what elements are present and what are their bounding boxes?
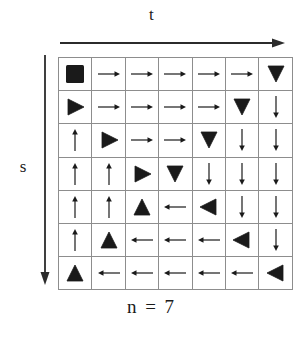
grid-cell-r4-c5	[192, 157, 225, 190]
thin-right-arrow-icon	[126, 91, 158, 123]
thin-down-arrow-icon	[226, 191, 258, 223]
grid-row	[59, 124, 293, 157]
thin-up-arrow-icon	[59, 124, 91, 156]
grid-cell-r4-c7	[259, 157, 292, 190]
thin-up-arrow-icon	[59, 224, 91, 256]
grid-cell-r4-c6	[225, 157, 258, 190]
bold-up-triangle-icon	[126, 191, 158, 223]
bold-right-triangle-icon	[59, 91, 91, 123]
grid-cell-r7-c2	[92, 257, 125, 290]
grid-row	[59, 257, 293, 290]
grid-cell-r5-c2	[92, 190, 125, 223]
thin-right-arrow-icon	[193, 91, 225, 123]
grid-cell-r4-c4	[159, 157, 192, 190]
bold-down-triangle-icon	[159, 158, 191, 190]
t-axis-arrow-icon	[60, 33, 285, 53]
grid-cell-r4-c2	[92, 157, 125, 190]
grid-cell-r7-c3	[125, 257, 158, 290]
grid-cell-r3-c3	[125, 124, 158, 157]
grid-cell-r2-c4	[159, 91, 192, 124]
grid-cell-r1-c4	[159, 58, 192, 91]
grid-cell-r3-c7	[259, 124, 292, 157]
thin-down-arrow-icon	[193, 158, 225, 190]
grid-cell-r1-c3	[125, 58, 158, 91]
grid-cell-r6-c6	[225, 223, 258, 256]
thin-up-arrow-icon	[59, 158, 91, 190]
grid-cell-r2-c5	[192, 91, 225, 124]
bold-left-triangle-icon	[259, 257, 291, 289]
grid-cell-r3-c6	[225, 124, 258, 157]
s-axis-arrow-icon	[35, 55, 55, 285]
thin-up-arrow-icon	[59, 191, 91, 223]
grid-cell-r5-c3	[125, 190, 158, 223]
grid-cell-r6-c3	[125, 223, 158, 256]
thin-up-arrow-icon	[92, 158, 124, 190]
grid-cell-r2-c6	[225, 91, 258, 124]
bold-left-triangle-icon	[226, 224, 258, 256]
direction-grid-body	[59, 58, 293, 290]
grid-cell-r3-c1	[59, 124, 92, 157]
grid-cell-r7-c1	[59, 257, 92, 290]
thin-right-arrow-icon	[92, 58, 124, 90]
thin-left-arrow-icon	[193, 257, 225, 289]
grid-cell-r4-c3	[125, 157, 158, 190]
bold-left-triangle-icon	[193, 191, 225, 223]
grid-cell-r2-c1	[59, 91, 92, 124]
grid-cell-r5-c7	[259, 190, 292, 223]
thin-left-arrow-icon	[159, 224, 191, 256]
grid-cell-r3-c4	[159, 124, 192, 157]
thin-down-arrow-icon	[226, 158, 258, 190]
figure-caption: n = 7	[0, 296, 303, 318]
thin-right-arrow-icon	[193, 58, 225, 90]
thin-down-arrow-icon	[226, 124, 258, 156]
grid-row	[59, 223, 293, 256]
figure-root: t s n = 7	[0, 0, 303, 342]
thin-left-arrow-icon	[193, 224, 225, 256]
bold-right-triangle-icon	[92, 124, 124, 156]
grid-cell-r6-c1	[59, 223, 92, 256]
thin-down-arrow-icon	[259, 224, 291, 256]
thin-left-arrow-icon	[159, 257, 191, 289]
thin-right-arrow-icon	[226, 58, 258, 90]
grid-cell-r2-c2	[92, 91, 125, 124]
bold-down-triangle-icon	[259, 58, 291, 90]
s-axis-label: s	[10, 158, 36, 176]
thin-right-arrow-icon	[126, 124, 158, 156]
thin-left-arrow-icon	[126, 224, 158, 256]
block-marker-icon	[59, 58, 91, 90]
grid-cell-r6-c5	[192, 223, 225, 256]
bold-down-triangle-icon	[193, 124, 225, 156]
thin-down-arrow-icon	[259, 191, 291, 223]
grid-row	[59, 157, 293, 190]
thin-right-arrow-icon	[159, 124, 191, 156]
grid-cell-r1-c6	[225, 58, 258, 91]
grid-cell-r7-c4	[159, 257, 192, 290]
grid-cell-r6-c7	[259, 223, 292, 256]
thin-left-arrow-icon	[126, 257, 158, 289]
thin-left-arrow-icon	[159, 191, 191, 223]
grid-cell-r2-c7	[259, 91, 292, 124]
bold-up-triangle-icon	[92, 224, 124, 256]
grid-cell-r5-c1	[59, 190, 92, 223]
grid-cell-r5-c6	[225, 190, 258, 223]
thin-down-arrow-icon	[259, 91, 291, 123]
bold-up-triangle-icon	[59, 257, 91, 289]
grid-cell-r1-c1	[59, 58, 92, 91]
grid-cell-r7-c6	[225, 257, 258, 290]
t-axis-label: t	[0, 6, 303, 24]
grid-row	[59, 58, 293, 91]
thin-right-arrow-icon	[126, 58, 158, 90]
thin-left-arrow-icon	[92, 257, 124, 289]
grid-cell-r1-c7	[259, 58, 292, 91]
grid-cell-r7-c7	[259, 257, 292, 290]
bold-right-triangle-icon	[126, 158, 158, 190]
thin-right-arrow-icon	[159, 91, 191, 123]
grid-cell-r1-c2	[92, 58, 125, 91]
grid-cell-r7-c5	[192, 257, 225, 290]
thin-left-arrow-icon	[226, 257, 258, 289]
grid-cell-r5-c4	[159, 190, 192, 223]
bold-down-triangle-icon	[226, 91, 258, 123]
thin-up-arrow-icon	[92, 191, 124, 223]
grid-cell-r6-c4	[159, 223, 192, 256]
grid-cell-r6-c2	[92, 223, 125, 256]
